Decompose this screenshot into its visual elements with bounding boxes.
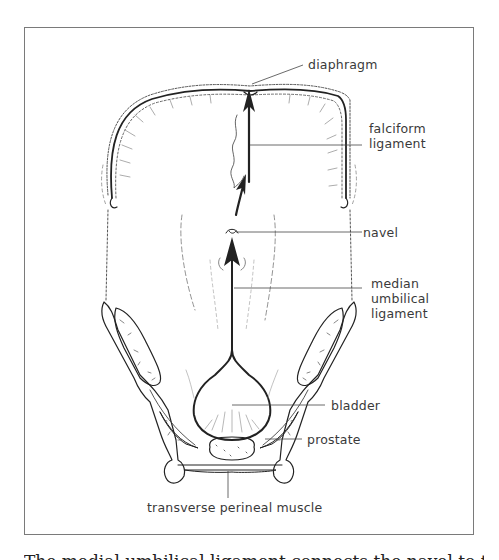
label-falciform-line2: ligament <box>369 136 426 151</box>
label-median-line3: ligament <box>371 306 428 321</box>
figure-caption: The medial umbilical ligament connects t… <box>24 551 484 560</box>
label-prostate: prostate <box>307 432 361 447</box>
anatomy-illustration <box>0 0 499 560</box>
falciform-ligament-shape <box>231 115 244 188</box>
label-median-line2: umbilical <box>371 291 429 306</box>
leader-diaphragm <box>252 65 303 84</box>
perineal-muscle-shape <box>178 465 282 472</box>
label-median-line1: median <box>371 276 419 291</box>
label-falciform-line1: falciform <box>369 121 426 136</box>
label-bladder: bladder <box>331 398 380 413</box>
pelvis-left <box>102 302 198 483</box>
label-diaphragm: diaphragm <box>308 57 378 72</box>
label-navel: navel <box>363 225 398 240</box>
diaphragm-dome <box>102 84 357 207</box>
pelvis-right <box>260 302 356 483</box>
navel-shape <box>226 229 238 233</box>
label-transverse-perineal: transverse perineal muscle <box>147 500 322 515</box>
